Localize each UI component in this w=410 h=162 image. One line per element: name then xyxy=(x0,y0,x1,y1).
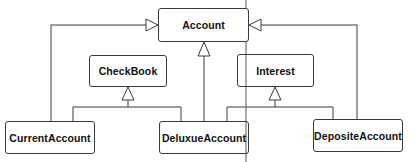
class-name: CurrentAccount xyxy=(9,132,90,144)
class-current-account[interactable]: CurrentAccount xyxy=(5,121,95,154)
class-name: Account xyxy=(182,19,225,31)
generalization-arrow-icon xyxy=(249,19,261,31)
class-interest[interactable]: Interest xyxy=(237,54,314,87)
class-name: DepositeAccount xyxy=(314,130,402,142)
generalization-arrow-icon xyxy=(269,87,281,100)
class-name: CheckBook xyxy=(99,65,158,77)
generalization-arrow-icon xyxy=(122,87,134,100)
generalization-arrow-icon xyxy=(146,19,158,31)
class-checkbook[interactable]: CheckBook xyxy=(89,55,167,87)
generalization-arrow-icon xyxy=(198,42,210,56)
class-name: DeluxueAccount xyxy=(162,132,246,144)
class-deposite-account[interactable]: DepositeAccount xyxy=(313,119,403,152)
class-account[interactable]: Account xyxy=(158,8,249,42)
class-deluxue-account[interactable]: DeluxueAccount xyxy=(159,121,249,154)
class-name: Interest xyxy=(256,65,295,77)
edge-checkbook-bus xyxy=(73,107,181,121)
